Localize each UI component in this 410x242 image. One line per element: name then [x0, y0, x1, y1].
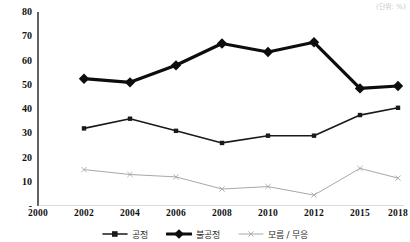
legend-label: 모름 / 무응 — [268, 228, 309, 241]
data-point-square — [396, 106, 400, 110]
legend-item-3[interactable]: 모름 / 무응 — [238, 228, 309, 241]
legend-item-2[interactable]: 불공정 — [166, 228, 220, 241]
chart-canvas — [36, 12, 404, 206]
series-line — [84, 168, 398, 195]
data-point-diamond — [217, 38, 227, 48]
data-point-square — [174, 129, 178, 133]
data-point-diamond — [263, 47, 273, 57]
x-tick-label: 2010 — [258, 208, 278, 218]
y-tick-label: 50 — [10, 80, 32, 90]
x-tick-label: 2006 — [166, 208, 186, 218]
data-point-diamond — [79, 73, 89, 83]
y-tick-label: 70 — [10, 31, 32, 41]
line-chart: (단위: %) 8070605040302010- 20002002200420… — [0, 0, 410, 242]
legend-label: 공정 — [132, 228, 148, 241]
y-tick-label: 30 — [10, 128, 32, 138]
square-marker-icon — [102, 229, 128, 239]
y-tick-label: 20 — [10, 153, 32, 163]
x-tick-label: 2004 — [120, 208, 140, 218]
x-tick-label: 2015 — [350, 208, 370, 218]
unit-note: (단위: %) — [376, 1, 406, 11]
cross-marker-icon — [238, 229, 264, 239]
data-point-diamond — [171, 60, 181, 70]
y-tick-label: 40 — [10, 104, 32, 114]
diamond-marker-icon — [166, 229, 192, 239]
series-2 — [79, 37, 403, 93]
x-tick-label: 2000 — [28, 208, 48, 218]
plot-area — [36, 12, 404, 206]
data-point-diamond — [125, 77, 135, 87]
x-tick-label: 2018 — [388, 208, 408, 218]
legend-item-1[interactable]: 공정 — [102, 228, 148, 241]
series-3 — [81, 166, 400, 198]
series-1 — [82, 106, 400, 146]
data-point-square — [82, 126, 86, 130]
legend-label: 불공정 — [196, 228, 220, 241]
y-tick-label: 10 — [10, 177, 32, 187]
data-point-square — [266, 133, 270, 137]
data-point-square — [312, 133, 316, 137]
y-tick-label: 60 — [10, 56, 32, 66]
y-axis-labels: 8070605040302010- — [6, 0, 32, 242]
x-tick-label: 2008 — [212, 208, 232, 218]
x-tick-label: 2002 — [74, 208, 94, 218]
data-point-square — [128, 117, 132, 121]
chart-legend: 공정불공정모름 / 무응 — [0, 226, 410, 242]
data-point-diamond — [393, 81, 403, 91]
data-point-square — [358, 113, 362, 117]
y-tick-label: 80 — [10, 7, 32, 17]
x-tick-label: 2012 — [304, 208, 324, 218]
x-axis-labels: 200020022004200620082010201220152018 — [0, 208, 410, 224]
data-point-square — [220, 141, 224, 145]
series-line — [84, 108, 398, 143]
